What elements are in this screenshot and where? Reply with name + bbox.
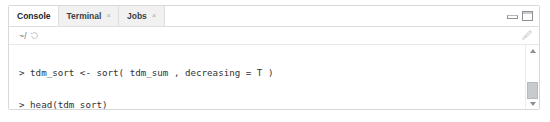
scrollbar-thumb[interactable] — [527, 82, 538, 99]
tab-terminal-label: Terminal — [67, 11, 102, 21]
broom-clear-console-icon[interactable] — [520, 29, 533, 42]
tab-console[interactable]: Console — [9, 6, 59, 26]
console-line: > head(tdm_sort) — [19, 100, 517, 109]
maximize-button[interactable] — [522, 11, 533, 21]
tab-jobs[interactable]: Jobs × — [119, 6, 165, 26]
maximize-icon — [522, 11, 533, 21]
minimize-button[interactable] — [507, 11, 518, 21]
refresh-icon[interactable] — [30, 31, 39, 40]
tab-bar-filler — [165, 6, 507, 26]
console-line: > tdm_sort <- sort( tdm_sum , decreasing… — [19, 68, 517, 79]
tab-console-label: Console — [17, 11, 51, 21]
console-transcript: > tdm_sort <- sort( tdm_sum , decreasing… — [19, 47, 517, 109]
scroll-up-arrow-icon[interactable] — [526, 45, 539, 56]
console-scrollbar[interactable] — [525, 45, 539, 109]
console-toolbar: ~/ — [9, 27, 539, 45]
working-directory-path[interactable]: ~/ — [9, 31, 27, 41]
scrollbar-track[interactable] — [526, 56, 539, 98]
tab-jobs-label: Jobs — [127, 11, 147, 21]
close-icon[interactable]: × — [106, 12, 111, 20]
window-controls — [507, 6, 539, 26]
console-panel: Console Terminal × Jobs × ~/ — [8, 5, 540, 110]
close-icon[interactable]: × — [152, 12, 157, 20]
tab-terminal[interactable]: Terminal × — [59, 6, 119, 26]
tab-bar: Console Terminal × Jobs × — [9, 6, 539, 27]
scroll-down-arrow-icon[interactable] — [526, 98, 539, 109]
console-output-area[interactable]: > tdm_sort <- sort( tdm_sum , decreasing… — [9, 45, 539, 109]
minimize-icon — [507, 15, 518, 19]
